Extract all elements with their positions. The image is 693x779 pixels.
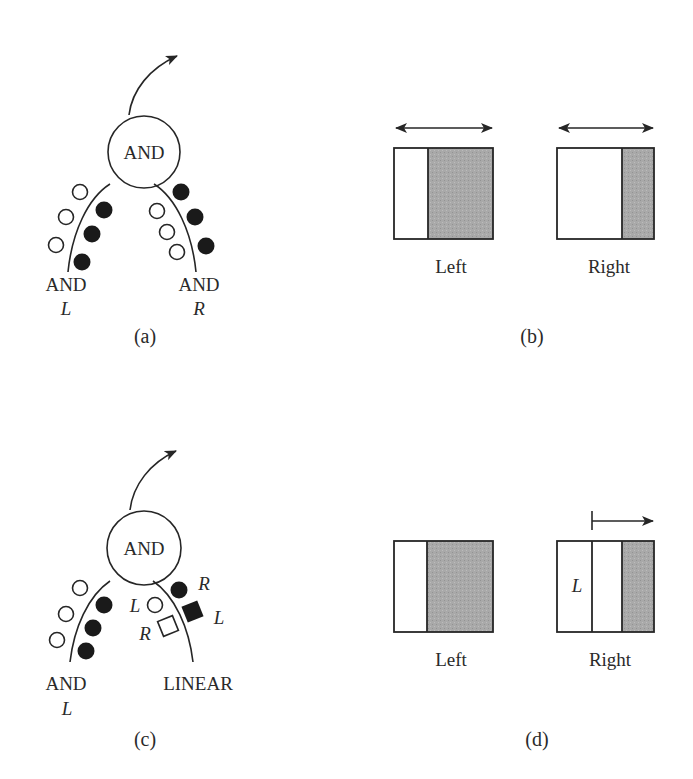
open-token (59, 607, 74, 622)
panel-caption: (c) (134, 728, 156, 751)
right-tokens (150, 184, 215, 260)
open-token (73, 581, 88, 596)
filled-square-token (181, 600, 203, 622)
filled-token (84, 226, 101, 243)
output-arrow (130, 451, 176, 510)
token-label: R (138, 623, 151, 644)
left-input-label: AND (45, 274, 86, 295)
left-box-label: Left (435, 256, 467, 277)
filled-token (96, 597, 113, 614)
panel-a: AND AND L AND R (a) (45, 56, 219, 348)
right-input-sublabel: R (192, 298, 205, 319)
token-label: L (213, 607, 225, 628)
filled-token (171, 582, 188, 599)
filled-token (78, 643, 95, 660)
filled-token (173, 184, 190, 201)
left-box-label: Left (435, 649, 467, 670)
right-input-label: LINEAR (163, 673, 233, 694)
panel-d: Left L Right (d) (394, 511, 654, 751)
panel-caption: (b) (520, 325, 543, 348)
figure-canvas: AND AND L AND R (a) (0, 0, 693, 779)
left-box (394, 148, 493, 239)
right-box-label: Right (589, 649, 632, 670)
left-tokens (49, 185, 113, 271)
token-label: L (129, 595, 141, 616)
open-square-token (158, 616, 179, 637)
panel-c: AND R L L R AND L LINEAR (c) (45, 451, 233, 751)
right-box-inner-label: L (571, 575, 583, 596)
open-token (59, 210, 74, 225)
open-token (49, 238, 64, 253)
right-box-label: Right (588, 256, 631, 277)
left-input-sublabel: L (60, 298, 72, 319)
open-token (148, 598, 163, 613)
right-box (557, 148, 654, 239)
filled-token (187, 209, 204, 226)
token-label: R (197, 573, 210, 594)
and-node-label: AND (123, 538, 164, 559)
filled-token (74, 254, 91, 271)
left-input-sublabel: L (61, 698, 73, 719)
open-token (50, 633, 65, 648)
panel-b: Left Right (b) (394, 128, 654, 348)
open-token (150, 204, 165, 219)
output-arrow (129, 56, 177, 115)
left-input-label: AND (45, 673, 86, 694)
panel-caption: (d) (525, 728, 548, 751)
right-input-label: AND (178, 274, 219, 295)
rightward-arrow (592, 511, 653, 530)
open-token (73, 185, 88, 200)
panel-caption: (a) (134, 325, 156, 348)
left-box (394, 541, 493, 632)
filled-token (198, 238, 215, 255)
open-token (170, 245, 185, 260)
filled-token (85, 620, 102, 637)
and-node-label: AND (123, 142, 164, 163)
filled-token (96, 202, 113, 219)
open-token (160, 225, 175, 240)
